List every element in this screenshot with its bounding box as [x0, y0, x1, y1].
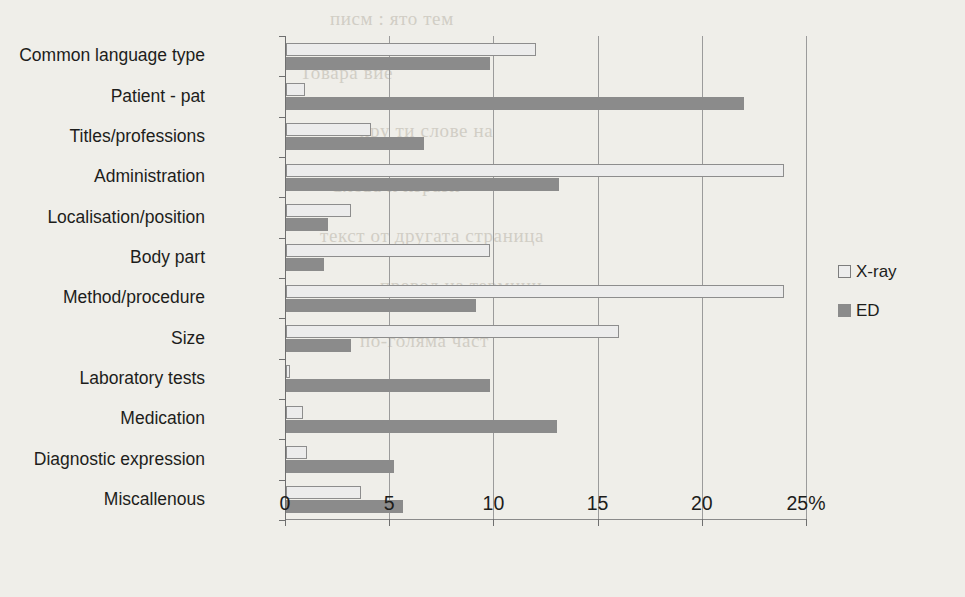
y-axis-tick: [279, 76, 286, 77]
category-label: Laboratory tests: [80, 370, 205, 388]
legend-label-xray: X-ray: [856, 263, 897, 280]
category-label: Miscallenous: [104, 491, 205, 509]
bar-xray: [286, 204, 351, 217]
y-axis-tick: [279, 117, 286, 118]
bar-xray: [286, 244, 490, 257]
y-axis-tick: [279, 480, 286, 481]
bar-ed: [286, 218, 328, 231]
bar-xray: [286, 285, 784, 298]
bar-ed: [286, 137, 424, 150]
y-axis-tick: [279, 36, 286, 37]
y-axis-tick: [279, 278, 286, 279]
bar-xray: [286, 123, 371, 136]
legend-item-xray: X-ray: [838, 263, 897, 280]
x-axis-tick: [493, 519, 494, 526]
category-label: Common language type: [19, 47, 205, 65]
x-axis-tick-label: 10: [483, 492, 505, 515]
legend-item-ed: ED: [838, 302, 897, 319]
y-axis-tick: [279, 359, 286, 360]
category-label: Diagnostic expression: [34, 451, 205, 469]
category-label: Localisation/position: [47, 209, 205, 227]
y-axis-tick: [279, 157, 286, 158]
bar-xray: [286, 164, 784, 177]
y-axis-tick: [279, 439, 286, 440]
chart-legend: X-ray ED: [838, 263, 897, 341]
bar-xray: [286, 406, 303, 419]
category-label: Titles/professions: [69, 128, 205, 146]
bar-xray: [286, 43, 536, 56]
category-label: Administration: [94, 168, 205, 186]
ed-swatch-icon: [838, 304, 851, 317]
x-axis-tick: [806, 519, 807, 526]
category-label: Method/procedure: [63, 289, 205, 307]
legend-label-ed: ED: [856, 302, 880, 319]
bar-xray: [286, 486, 361, 499]
x-axis-tick-label: 20: [691, 492, 713, 515]
x-axis-tick-label: 5: [384, 492, 395, 515]
bar-xray: [286, 83, 305, 96]
category-label: Medication: [120, 410, 205, 428]
horizontal-bar-chart: X-ray ED 0510152025%Common language type…: [0, 0, 965, 597]
bar-ed: [286, 299, 476, 312]
y-axis-tick: [279, 318, 286, 319]
bar-ed: [286, 460, 394, 473]
bar-xray: [286, 446, 307, 459]
y-axis-tick: [279, 238, 286, 239]
category-label: Size: [171, 330, 205, 348]
category-label: Patient - pat: [111, 88, 205, 106]
x-axis-tick-label: 25%: [786, 492, 825, 515]
x-axis-line: [285, 519, 806, 520]
bar-xray: [286, 325, 619, 338]
bar-ed: [286, 178, 559, 191]
bar-ed: [286, 379, 490, 392]
xray-swatch-icon: [838, 265, 851, 278]
y-axis-tick: [279, 399, 286, 400]
x-axis-tick: [389, 519, 390, 526]
bar-ed: [286, 97, 744, 110]
y-axis-tick: [279, 520, 286, 521]
bar-ed: [286, 420, 557, 433]
x-gridline: [806, 36, 807, 520]
bar-ed: [286, 57, 490, 70]
bar-ed: [286, 339, 351, 352]
x-axis-tick: [598, 519, 599, 526]
y-axis-tick: [279, 197, 286, 198]
bar-ed: [286, 258, 324, 271]
x-axis-tick-label: 15: [587, 492, 609, 515]
x-axis-tick-label: 0: [280, 492, 291, 515]
x-axis-tick: [702, 519, 703, 526]
bar-xray: [286, 365, 290, 378]
category-label: Body part: [130, 249, 205, 267]
plot-area: [285, 36, 806, 520]
